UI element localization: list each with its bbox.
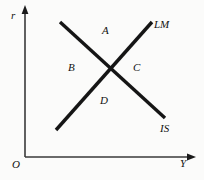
region-label-b: B	[68, 62, 75, 73]
vertical-axis-label: r	[11, 10, 15, 21]
horizontal-axis-arrowhead	[187, 154, 196, 161]
region-label-c: C	[133, 62, 140, 73]
lm-curve-label: LM	[154, 19, 169, 30]
region-label-d: D	[100, 95, 108, 106]
vertical-axis-arrowhead	[22, 5, 29, 14]
horizontal-axis-label: Y	[180, 158, 186, 169]
is-lm-diagram: r Y O LM IS A B C D	[0, 0, 204, 180]
lm-curve	[56, 22, 152, 130]
is-curve-label: IS	[160, 123, 169, 134]
region-label-a: A	[102, 25, 109, 36]
is-curve	[60, 22, 165, 118]
origin-label: O	[12, 159, 20, 170]
